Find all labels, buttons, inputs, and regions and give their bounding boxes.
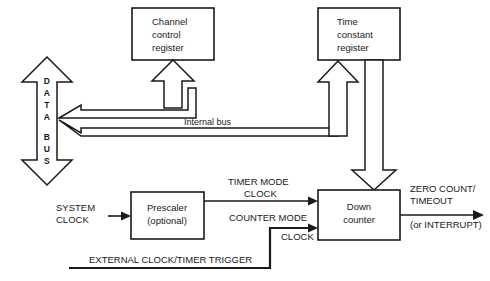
data-bus-letter-1: A	[44, 88, 50, 98]
time-constant-register-line1: Time	[337, 16, 358, 27]
prescaler-line2: (optional)	[147, 215, 187, 226]
channel-control-register-line3: register	[152, 42, 184, 53]
timer-counter-block-diagram: Channel control register Time constant r…	[0, 0, 490, 281]
data-bus-letter-6: U	[44, 144, 50, 154]
data-bus-letter-7: S	[44, 156, 50, 166]
data-bus-letter-3: A	[44, 112, 50, 122]
system-clock-signal: SYSTEM CLOCK	[56, 202, 131, 225]
data-bus-letter-5: B	[44, 132, 50, 142]
channel-control-register-line1: Channel	[152, 16, 187, 27]
down-counter-line1: Down	[347, 201, 371, 212]
external-clock-timer-trigger-label: EXTERNAL CLOCK/TIMER TRIGGER	[89, 254, 252, 265]
diagram-canvas: Channel control register Time constant r…	[0, 0, 490, 281]
timer-mode-clock-line1: TIMER MODE	[228, 176, 289, 187]
system-clock-line2: CLOCK	[56, 214, 89, 225]
timer-mode-clock-line2: CLOCK	[244, 188, 277, 199]
time-constant-register-block: Time constant register	[318, 8, 400, 60]
system-clock-line1: SYSTEM	[56, 202, 95, 213]
data-bus-letter-2: T	[44, 100, 50, 110]
system-clock-arrowhead	[121, 212, 131, 221]
data-bus-letters: D A T A B U S	[44, 76, 50, 166]
time-constant-register-line3: register	[337, 42, 369, 53]
data-bus-letter-0: D	[44, 76, 50, 86]
time-constant-register-line2: constant	[337, 29, 373, 40]
prescaler-line1: Prescaler	[147, 202, 187, 213]
down-counter-block: Down counter	[318, 190, 400, 240]
internal-bus-label: Internal bus	[184, 117, 232, 127]
prescaler-block: Prescaler (optional)	[131, 192, 204, 239]
channel-control-register-block: Channel control register	[132, 8, 214, 60]
zero-count-timeout-line1: ZERO COUNT/	[410, 183, 476, 194]
zero-count-timeout-signal: ZERO COUNT/ TIMEOUT (or INTERRUPT)	[400, 183, 484, 230]
down-counter-line2: counter	[343, 214, 375, 225]
timer-mode-clock-signal: TIMER MODE CLOCK	[204, 176, 318, 206]
clock-label: CLOCK	[281, 231, 314, 242]
channel-control-register-line2: control	[152, 29, 181, 40]
time-constant-register-input-arrow	[318, 61, 358, 136]
zero-count-timeout-line2: TIMEOUT	[410, 195, 453, 206]
or-interrupt-label: (or INTERRUPT)	[410, 219, 482, 230]
counter-mode-label: COUNTER MODE	[229, 212, 307, 223]
timer-mode-clock-arrowhead	[308, 197, 318, 206]
time-constant-to-down-counter-arrow	[352, 60, 396, 190]
